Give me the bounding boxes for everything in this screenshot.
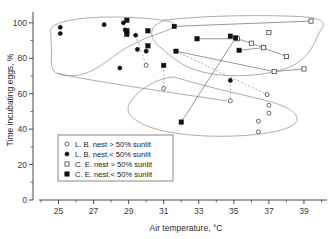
legend-item-0[interactable]: L. B. nest > 50% sunlit [65, 140, 152, 149]
legend-item-1[interactable]: L. B. nest.< 50% sunlit [65, 150, 152, 159]
point-open-circle [267, 103, 271, 107]
point-filled-square [237, 48, 241, 52]
y-tick-label: 40 [18, 124, 28, 134]
point-filled-square [146, 29, 150, 33]
point-open-square [309, 19, 313, 23]
legend-marker-open-square [65, 162, 69, 166]
legend[interactable]: L. B. nest > 50% sunlitL. B. nest.< 50% … [58, 135, 173, 181]
point-filled-square [125, 32, 129, 36]
point-open-circle [228, 99, 232, 103]
y-tick-label: 60 [18, 89, 28, 99]
point-open-circle [265, 93, 269, 97]
point-open-square [272, 69, 276, 73]
plot-background [0, 0, 332, 239]
legend-item-label: L. B. nest.< 50% sunlit [75, 150, 152, 159]
point-filled-circle [135, 47, 139, 51]
point-filled-circle [134, 33, 138, 37]
legend-item-2[interactable]: C. E. nest > 50% sunlit [65, 160, 153, 169]
chart-figure: 0204060801002527293133353739 L. B. nest … [0, 0, 332, 239]
x-axis-title: Air temperature, °C [150, 223, 223, 233]
point-filled-square [162, 63, 166, 67]
point-open-circle [162, 86, 166, 90]
y-axis-title: Time incubating eggs, % [5, 53, 15, 146]
point-open-square [267, 31, 271, 35]
y-tick-label: 0 [22, 195, 27, 205]
legend-marker-open-circle [65, 142, 69, 146]
point-filled-square [179, 120, 183, 124]
point-filled-square [146, 44, 150, 48]
legend-marker-filled-circle [65, 152, 69, 156]
legend-marker-filled-square [65, 172, 69, 176]
point-open-square [249, 41, 253, 45]
legend-item-label: C. E. nest.< 50% sunlit [75, 170, 153, 179]
point-filled-square [233, 36, 237, 40]
x-tick-label: 31 [159, 206, 169, 216]
y-tick-label: 80 [18, 53, 28, 63]
x-tick-label: 35 [229, 206, 239, 216]
point-open-square [302, 67, 306, 71]
legend-item-3[interactable]: C. E. nest.< 50% sunlit [65, 170, 153, 179]
x-tick-label: 27 [89, 206, 99, 216]
point-filled-circle [58, 31, 62, 35]
point-open-circle [267, 111, 271, 115]
point-open-square [262, 46, 266, 50]
point-filled-square [195, 37, 199, 41]
legend-item-label: L. B. nest > 50% sunlit [75, 140, 152, 149]
point-filled-square [172, 24, 176, 28]
point-filled-circle [228, 78, 232, 82]
point-filled-circle [102, 23, 106, 27]
point-filled-circle [144, 49, 148, 53]
point-filled-circle [118, 66, 122, 70]
point-open-circle [256, 130, 260, 134]
x-tick-label: 25 [54, 206, 64, 216]
point-filled-square [228, 34, 232, 38]
x-tick-label: 37 [264, 206, 274, 216]
point-open-square [284, 54, 288, 58]
legend-item-label: C. E. nest > 50% sunlit [75, 160, 153, 169]
x-tick-label: 39 [299, 206, 309, 216]
point-filled-square [125, 18, 129, 22]
y-tick-label: 20 [18, 160, 28, 170]
y-tick-label: 100 [13, 18, 27, 28]
point-open-circle [144, 63, 148, 67]
point-open-circle [256, 119, 260, 123]
x-tick-label: 33 [194, 206, 204, 216]
x-tick-label: 29 [124, 206, 134, 216]
point-filled-circle [58, 25, 62, 29]
scatter-plot: 0204060801002527293133353739 L. B. nest … [0, 0, 332, 239]
point-filled-square [174, 49, 178, 53]
